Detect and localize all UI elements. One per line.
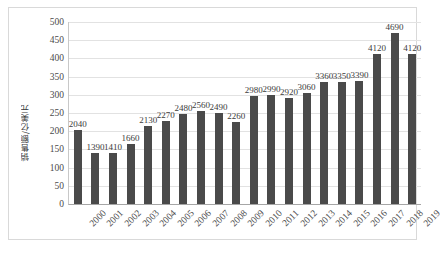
y-axis-tick-label: 450 xyxy=(35,35,64,45)
bar[interactable] xyxy=(267,95,275,204)
bar-slot: 2040 xyxy=(69,22,87,204)
y-axis-tick-label: 300 xyxy=(35,90,64,100)
x-axis-tick-label: 2019 xyxy=(422,208,442,229)
bar[interactable] xyxy=(197,111,205,204)
bar-value-label: 3360 xyxy=(315,71,333,81)
x-axis-tick-label: 2007 xyxy=(211,208,232,229)
x-axis-tick-label: 2018 xyxy=(404,208,425,229)
bar-value-label: 2990 xyxy=(262,84,280,94)
bar-slot: 3350 xyxy=(333,22,351,204)
y-axis-tick-label: 200 xyxy=(35,126,64,136)
y-axis-tick-label: 250 xyxy=(35,108,64,118)
bar-slot: 2480 xyxy=(175,22,193,204)
bar[interactable] xyxy=(232,122,240,204)
bar-value-label: 3390 xyxy=(350,70,368,80)
bar-value-label: 3060 xyxy=(298,82,316,92)
bar-slot: 3360 xyxy=(315,22,333,204)
plot-area: 2040139014101660213022702480256024902260… xyxy=(68,22,421,205)
y-axis-tick-label: 500 xyxy=(35,17,64,27)
bar-slot: 4120 xyxy=(368,22,386,204)
bar-slot: 3390 xyxy=(351,22,369,204)
x-axis-tick-label: 2015 xyxy=(351,208,372,229)
bar-slot: 1410 xyxy=(104,22,122,204)
x-axis-tick-label: 2001 xyxy=(105,208,126,229)
bar[interactable] xyxy=(74,130,82,204)
x-axis-tick-label: 2013 xyxy=(316,208,337,229)
bar-value-label: 1660 xyxy=(122,133,140,143)
bar-value-label: 1390 xyxy=(86,142,104,152)
x-axis-tick-label: 2008 xyxy=(228,208,249,229)
bar[interactable] xyxy=(144,126,152,204)
y-axis-title: 销售额/亿美元 xyxy=(19,68,33,198)
x-axis-tick-label: 2005 xyxy=(175,208,196,229)
x-axis-tick-label: 2011 xyxy=(281,208,301,228)
bar[interactable] xyxy=(250,96,258,204)
bar[interactable] xyxy=(408,54,416,204)
x-axis-tick-label: 2002 xyxy=(123,208,144,229)
bar-value-label: 2260 xyxy=(227,111,245,121)
y-axis-tick-label: 350 xyxy=(35,72,64,82)
y-axis-tick-labels: 500450400350300250200150100500 xyxy=(35,20,64,210)
bar-slot: 2560 xyxy=(192,22,210,204)
bar[interactable] xyxy=(215,113,223,204)
bar-slot: 4690 xyxy=(386,22,404,204)
bar-value-label: 4120 xyxy=(368,43,386,53)
bar-value-label: 2040 xyxy=(69,119,87,129)
bar-slot: 2990 xyxy=(263,22,281,204)
bar-slot: 4120 xyxy=(403,22,421,204)
y-axis-tick-label: 50 xyxy=(35,181,64,191)
bar-slot: 3060 xyxy=(298,22,316,204)
bar[interactable] xyxy=(391,33,399,204)
bar-slot: 2260 xyxy=(227,22,245,204)
bar[interactable] xyxy=(91,153,99,204)
bar[interactable] xyxy=(162,121,170,204)
bar[interactable] xyxy=(338,82,346,204)
bar[interactable] xyxy=(320,82,328,204)
x-axis-tick-labels: 2000200120022003200420052006200720082009… xyxy=(68,206,420,246)
x-axis-tick-label: 2012 xyxy=(299,208,320,229)
bar[interactable] xyxy=(355,81,363,204)
bar[interactable] xyxy=(373,54,381,204)
bar-value-label: 2270 xyxy=(157,110,175,120)
x-axis-tick-label: 2004 xyxy=(158,208,179,229)
y-axis-tick-label: 150 xyxy=(35,144,64,154)
bar-slot: 2920 xyxy=(280,22,298,204)
bar[interactable] xyxy=(303,93,311,204)
bar-slot: 2270 xyxy=(157,22,175,204)
bar-value-label: 1410 xyxy=(104,142,122,152)
bars-layer: 2040139014101660213022702480256024902260… xyxy=(69,22,421,204)
bar-slot: 2490 xyxy=(210,22,228,204)
bar-value-label: 2980 xyxy=(245,85,263,95)
y-axis-tick-label: 400 xyxy=(35,53,64,63)
x-axis-tick-label: 2010 xyxy=(263,208,284,229)
bar-value-label: 2560 xyxy=(192,100,210,110)
bar-value-label: 4120 xyxy=(403,43,421,53)
x-axis-tick-label: 2003 xyxy=(140,208,161,229)
x-axis-tick-label: 2016 xyxy=(369,208,390,229)
x-axis-tick-label: 2000 xyxy=(87,208,108,229)
bar-value-label: 2480 xyxy=(174,103,192,113)
x-axis-tick-label: 2006 xyxy=(193,208,214,229)
bar-value-label: 3350 xyxy=(333,71,351,81)
bar-value-label: 2920 xyxy=(280,87,298,97)
bar[interactable] xyxy=(179,114,187,204)
bar-value-label: 2490 xyxy=(210,102,228,112)
x-axis-tick-label: 2017 xyxy=(387,208,408,229)
y-axis-tick-label: 100 xyxy=(35,163,64,173)
bar[interactable] xyxy=(285,98,293,204)
bar-slot: 2130 xyxy=(139,22,157,204)
bar-value-label: 2130 xyxy=(139,115,157,125)
x-axis-tick-label: 2014 xyxy=(334,208,355,229)
bar-value-label: 4690 xyxy=(386,22,404,32)
x-axis-tick-label: 2009 xyxy=(246,208,267,229)
y-axis-tick-label: 0 xyxy=(35,199,64,209)
bar[interactable] xyxy=(127,144,135,204)
bar-slot: 2980 xyxy=(245,22,263,204)
bar-slot: 1390 xyxy=(87,22,105,204)
bar-slot: 1660 xyxy=(122,22,140,204)
chart-frame: 销售额/亿美元 500450400350300250200150100500 2… xyxy=(8,7,417,240)
bar[interactable] xyxy=(109,153,117,204)
